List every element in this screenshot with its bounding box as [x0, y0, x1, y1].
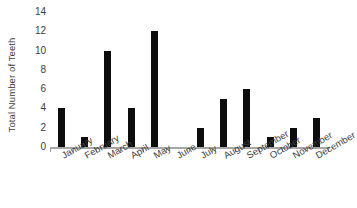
- bar: [151, 31, 158, 147]
- y-axis-tick-labels: 02468101214: [26, 12, 46, 147]
- y-axis-tick-label: 6: [28, 84, 46, 94]
- y-axis-tick-label: 10: [28, 46, 46, 56]
- y-axis-tick-label: 0: [28, 142, 46, 152]
- bar: [220, 99, 227, 147]
- bars-layer: [50, 12, 328, 147]
- y-axis-tick-label: 12: [28, 26, 46, 36]
- y-axis-title: Total Number of Teeth: [0, 11, 22, 159]
- bar: [58, 108, 65, 147]
- y-axis-tick-label: 2: [28, 123, 46, 133]
- bar: [104, 51, 111, 147]
- x-axis-tick-labels: JanuaryFebruaryMarchAprilMayJuneJulyAugu…: [50, 152, 328, 208]
- bar: [197, 128, 204, 147]
- y-axis-tick-label: 8: [28, 65, 46, 75]
- plot-area: [50, 12, 328, 147]
- y-axis-tick-label: 4: [28, 103, 46, 113]
- y-axis-tick-label: 14: [28, 7, 46, 17]
